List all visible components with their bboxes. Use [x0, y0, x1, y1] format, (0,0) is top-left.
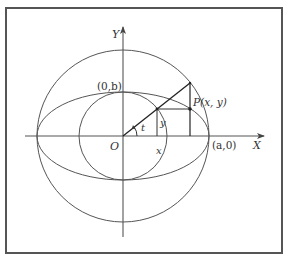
point-a-label: (a,0) — [212, 139, 236, 151]
x-segment-label: x — [156, 145, 162, 156]
y-axis-label: Y — [112, 28, 121, 41]
x-axis-label: X — [252, 139, 262, 152]
point-p-label: P(x, y) — [192, 96, 227, 108]
y-segment-label: y — [159, 117, 166, 128]
point-b-label: (0,b) — [97, 80, 122, 92]
point-inner — [156, 108, 159, 111]
ellipse-parametric-diagram: Y X O (0,b) (a,0) P(x, y) t y x — [0, 0, 287, 260]
point-outer — [189, 82, 191, 84]
origin-label: O — [110, 140, 119, 153]
point-p — [188, 107, 192, 111]
angle-t-label: t — [141, 122, 146, 133]
